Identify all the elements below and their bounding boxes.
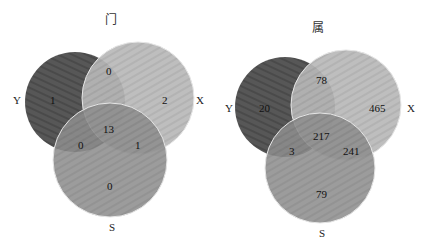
region-y-s: 3 bbox=[289, 145, 295, 157]
region-x-s: 241 bbox=[343, 145, 360, 157]
set-label-y: Y bbox=[13, 94, 21, 106]
region-y-x: 78 bbox=[316, 74, 328, 86]
region-x-s: 1 bbox=[135, 139, 141, 151]
venn-panel-phylum: 门 Y X S 1 2 0 13 0 1 0 bbox=[0, 0, 215, 251]
region-y-s: 0 bbox=[78, 139, 84, 151]
venn-diagram: Y X S 1 2 0 13 0 1 0 bbox=[0, 0, 215, 251]
region-x-only: 465 bbox=[369, 102, 386, 114]
region-y-only: 1 bbox=[50, 94, 56, 106]
region-y-x-s: 217 bbox=[313, 130, 330, 142]
region-y-x-s: 13 bbox=[103, 123, 115, 135]
venn-panel-genus: 属 Y X S 20 465 78 217 3 241 79 bbox=[215, 0, 430, 251]
set-label-s: S bbox=[319, 227, 325, 239]
set-label-x: X bbox=[196, 94, 204, 106]
region-x-only: 2 bbox=[162, 94, 168, 106]
region-s-only: 79 bbox=[316, 188, 328, 200]
region-y-only: 20 bbox=[259, 102, 271, 114]
venn-diagram: Y X S 20 465 78 217 3 241 79 bbox=[215, 0, 430, 251]
set-label-x: X bbox=[407, 102, 415, 114]
region-s-only: 0 bbox=[107, 180, 113, 192]
set-label-y: Y bbox=[225, 102, 233, 114]
set-label-s: S bbox=[109, 221, 115, 233]
circle-s bbox=[53, 103, 167, 217]
region-y-x: 0 bbox=[106, 65, 112, 77]
